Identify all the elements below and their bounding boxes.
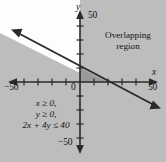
- coordinate-plane-svg: [0, 0, 166, 162]
- linear-inequality-figure: y 50 −50 x 50 −50 0 Overlapping region x…: [0, 0, 166, 162]
